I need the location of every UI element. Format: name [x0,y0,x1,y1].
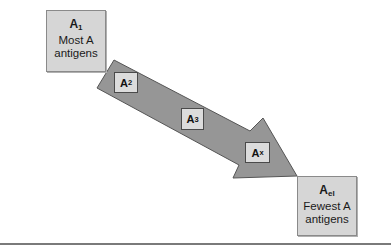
start-box-line2: antigens [47,47,105,60]
diagram-canvas: A1 Most A antigens A2 A3 Ax Ael Fewest A… [0,0,391,250]
step-box-a2: A2 [114,72,138,93]
end-box-line1: Fewest A [298,200,356,213]
horizontal-rule [0,243,391,245]
end-box-ael: Ael Fewest A antigens [297,176,357,236]
start-box-title: A1 [47,18,105,34]
clipped-caption [4,246,387,250]
step-box-ax: Ax [245,142,270,163]
start-box-line1: Most A [47,34,105,47]
end-box-title: Ael [298,184,356,200]
end-box-line2: antigens [298,213,356,226]
step-box-a3: A3 [181,108,204,130]
start-box-a1: A1 Most A antigens [46,10,106,72]
